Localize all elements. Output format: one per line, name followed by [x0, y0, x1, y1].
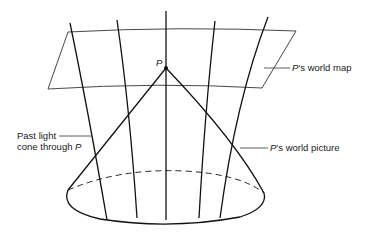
- leader-lines: [59, 68, 290, 148]
- world-picture-label-text: ’s world picture: [276, 142, 339, 153]
- event-label-p: P: [156, 57, 162, 68]
- world-map-sheet: [48, 29, 296, 89]
- diagram-graphics: [0, 0, 368, 240]
- light-cone-label: Past light cone through P: [17, 130, 81, 152]
- light-cone-label-line2: cone through P: [17, 141, 81, 152]
- light-cone-label-line1: Past light: [17, 130, 81, 141]
- world-map-label-text: ’s world map: [298, 62, 351, 73]
- diagram-canvas: P P’s world map P’s world picture Past l…: [0, 0, 368, 240]
- light-cone-label-var: P: [75, 141, 81, 152]
- world-lines: [70, 11, 268, 220]
- event-point: [164, 66, 168, 70]
- light-cone-label-line2-text: cone through: [17, 141, 75, 152]
- world-map-label: P’s world map: [292, 62, 352, 73]
- world-picture-label: P’s world picture: [270, 142, 340, 153]
